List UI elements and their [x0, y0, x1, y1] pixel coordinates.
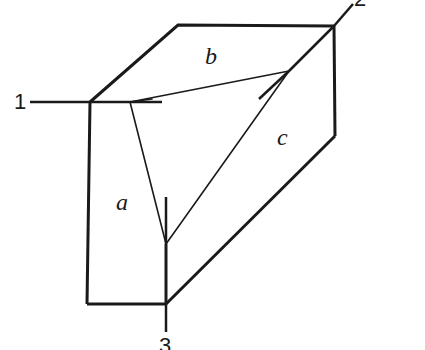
axis-3-label: 3: [159, 335, 171, 350]
axis-2-label: 2: [354, 0, 366, 10]
intercept-b-label: b: [205, 44, 217, 68]
front-left-edge: [87, 102, 90, 304]
intercept-c-label: c: [277, 125, 288, 149]
triangle-edge-b: [130, 71, 289, 102]
intercept-a-label: a: [116, 190, 128, 214]
right-bottom-edge: [166, 136, 335, 304]
diagram-canvas: 1 2 3 a b c: [0, 0, 425, 350]
axis-2-line: [334, 4, 353, 26]
axis-1-label: 1: [14, 91, 26, 113]
intercept-triangle: [130, 71, 289, 244]
axis-2-inner-line: [289, 26, 334, 71]
triangle-edge-c: [166, 71, 289, 244]
right-back-edge: [334, 26, 335, 136]
triangle-edge-a: [130, 102, 166, 244]
